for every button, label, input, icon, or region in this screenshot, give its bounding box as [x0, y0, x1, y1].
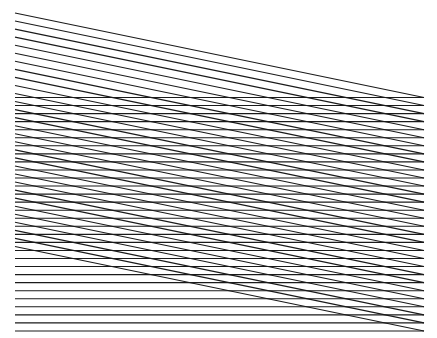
diagonal-line — [15, 246, 424, 331]
diagonal-line — [15, 29, 424, 114]
diagonal-line — [15, 53, 424, 138]
diagonal-line — [15, 142, 424, 227]
horizontal-lines — [15, 98, 424, 331]
diagonal-line — [15, 238, 424, 323]
diagonal-line — [15, 158, 424, 243]
diagonal-line — [15, 198, 424, 283]
diagonal-line — [15, 45, 424, 130]
diagonal-line — [15, 118, 424, 202]
moire-line-pattern — [0, 0, 437, 338]
diagonal-line — [15, 110, 424, 195]
diagonal-line — [15, 214, 424, 299]
diagonal-line — [15, 150, 424, 235]
diagonal-line — [15, 166, 424, 251]
diagonal-line — [15, 94, 424, 179]
diagonal-line — [15, 77, 424, 161]
diagonal-line — [15, 85, 424, 170]
diagonal-lines — [15, 13, 424, 331]
diagonal-line — [15, 222, 424, 306]
diagonal-line — [15, 102, 424, 187]
diagonal-line — [15, 61, 424, 146]
diagonal-line — [15, 37, 424, 122]
diagonal-line — [15, 69, 424, 154]
diagonal-line — [15, 206, 424, 291]
diagonal-line — [15, 174, 424, 259]
diagonal-line — [15, 21, 424, 106]
diagonal-line — [15, 134, 424, 219]
diagonal-line — [15, 190, 424, 275]
diagonal-line — [15, 13, 424, 98]
diagonal-line — [15, 126, 424, 211]
diagonal-line — [15, 182, 424, 266]
diagonal-line — [15, 230, 424, 315]
